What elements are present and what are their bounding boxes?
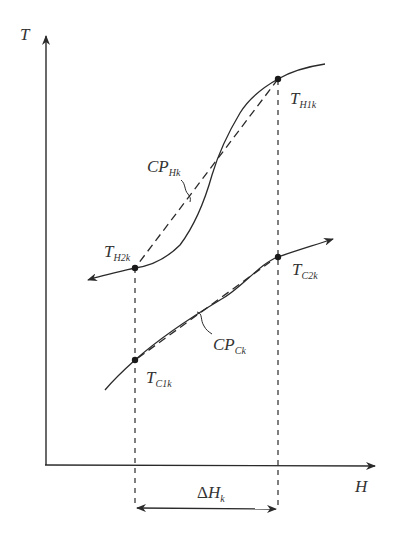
delta-h-arrow	[137, 508, 276, 509]
x-axis	[45, 465, 375, 466]
label-t-h2k: TH2k	[104, 242, 131, 263]
cold-curve	[105, 255, 282, 390]
label-t-c1k: TC1k	[146, 368, 172, 389]
point-t-h2k	[132, 265, 138, 271]
guide-lines	[135, 80, 278, 508]
label-t-h1k: TH1k	[290, 89, 317, 110]
point-t-c2k	[275, 254, 281, 260]
hot-cp-leader	[181, 180, 190, 202]
point-t-c1k	[132, 357, 138, 363]
cold-cp-leader	[197, 312, 212, 334]
label-t-c2k: TC2k	[292, 260, 318, 281]
y-axis-label: T	[20, 25, 31, 44]
label-cp-ck: CPCk	[213, 335, 246, 356]
x-axis-label: H	[354, 477, 369, 496]
axes	[45, 36, 375, 466]
label-cp-hk: CPHk	[147, 157, 181, 178]
t-h-diagram: T H TH1k TH2k CPHk TC1k TC2k CPCk ΔHk	[0, 0, 397, 538]
label-delta-h-k: ΔHk	[197, 483, 225, 504]
point-t-h1k	[275, 76, 281, 82]
